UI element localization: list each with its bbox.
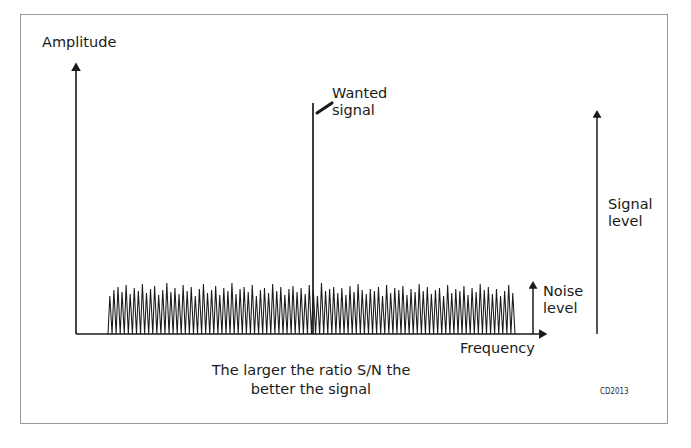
x-axis-label: Frequency (460, 340, 535, 357)
signal-level-annotation: Signallevel (608, 196, 653, 230)
noise-level-line-2: level (543, 300, 577, 316)
noise-spike-path (108, 283, 515, 334)
caption-line-2: better the signal (251, 381, 371, 397)
figure-signal-to-noise-diagram: Amplitude Frequency Wantedsignal Signall… (0, 0, 691, 448)
wanted-signal-line-1: Wanted (332, 85, 387, 101)
noise-floor-waveform (108, 283, 515, 334)
signal-level-line-1: Signal (608, 196, 653, 212)
wanted-signal-pointer-icon (317, 103, 332, 113)
noise-level-line-1: Noise (543, 283, 583, 299)
figure-id-label: CD2013 (600, 383, 629, 400)
wanted-signal-annotation: Wantedsignal (332, 85, 387, 119)
y-axis-label: Amplitude (42, 34, 116, 51)
wanted-signal-line-2: signal (332, 102, 375, 118)
signal-level-line-2: level (608, 213, 642, 229)
figure-caption: The larger the ratio S/N thebetter the s… (76, 361, 546, 399)
caption-line-1: The larger the ratio S/N the (212, 362, 411, 378)
noise-level-annotation: Noiselevel (543, 283, 583, 317)
